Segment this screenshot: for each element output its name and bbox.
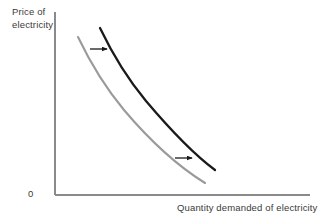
demand-curve-figure: Price of electricity Quantity demanded o… <box>0 0 321 222</box>
origin-tick-label: 0 <box>28 188 33 199</box>
demand-curve-original <box>78 37 205 183</box>
plot-area <box>0 0 321 222</box>
x-axis-label: Quantity demanded of electricity <box>177 202 318 215</box>
y-axis-label-line2: electricity <box>12 19 53 30</box>
y-axis-label-line1: Price of <box>12 6 45 17</box>
y-axis-label: Price of electricity <box>12 6 82 31</box>
demand-curve-shifted <box>100 28 215 170</box>
